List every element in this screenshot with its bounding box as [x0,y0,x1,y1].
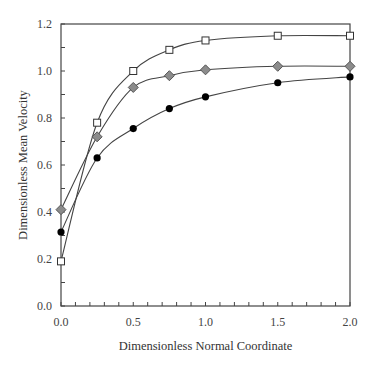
square-marker [94,119,101,126]
x-tick-label: 2.0 [343,315,358,329]
chart: 0.00.51.01.52.00.00.20.40.60.81.01.2 Dim… [0,0,378,366]
y-tick-label: 1.2 [37,17,52,31]
square-marker [347,32,354,39]
series-filled-circle [57,73,353,235]
x-axis-title: Dimensionless Normal Coordinate [119,339,293,353]
series-gray-diamond [56,61,355,214]
square-marker [130,68,137,75]
circle-marker [166,105,173,112]
y-tick-label: 0.4 [37,205,52,219]
x-tick-label: 0.5 [126,315,141,329]
diamond-marker [164,71,174,81]
y-tick-label: 0.6 [37,158,52,172]
axis-ticks: 0.00.51.01.52.00.00.20.40.60.81.01.2 [37,17,358,329]
circle-marker [130,125,137,132]
square-marker [202,37,209,44]
circle-marker [202,93,209,100]
y-tick-label: 0.0 [37,299,52,313]
diamond-marker [345,61,355,71]
diamond-marker [273,61,283,71]
y-tick-label: 0.8 [37,111,52,125]
diamond-marker [56,205,66,215]
data-series [56,32,355,265]
y-tick-label: 0.2 [37,252,52,266]
x-tick-label: 0.0 [54,315,69,329]
y-tick-label: 1.0 [37,64,52,78]
x-tick-label: 1.0 [198,315,213,329]
y-axis-title: Dimensionless Mean Velocity [16,89,30,239]
x-tick-label: 1.5 [270,315,285,329]
square-marker [274,32,281,39]
square-marker [166,46,173,53]
square-marker [58,258,65,265]
circle-marker [274,79,281,86]
circle-marker [346,73,353,80]
circle-marker [57,228,64,235]
series-line [61,66,350,210]
circle-marker [94,154,101,161]
diamond-marker [201,65,211,75]
